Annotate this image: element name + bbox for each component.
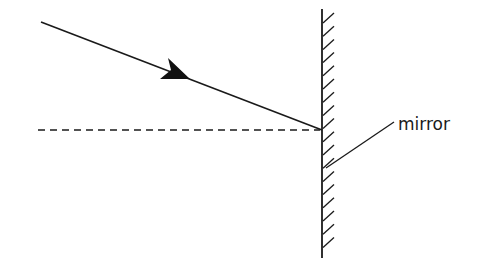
mirror-leader-line (326, 122, 394, 168)
mirror-hatching (323, 13, 334, 247)
mirror-label: mirror (398, 116, 450, 133)
arrowhead-icon (160, 58, 190, 79)
reflection-diagram (0, 0, 480, 272)
